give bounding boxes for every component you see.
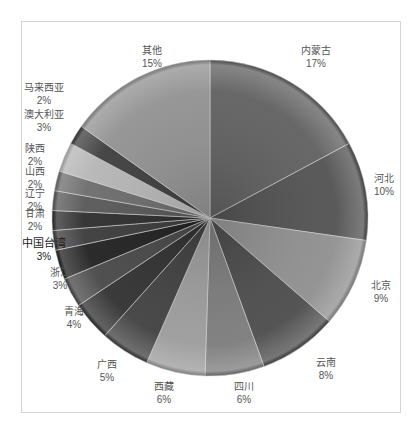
data-label-percent: 17% bbox=[301, 57, 331, 70]
data-label: 四川6% bbox=[234, 380, 254, 406]
data-label: 浙江3% bbox=[50, 266, 70, 292]
pie-slices bbox=[52, 60, 368, 376]
data-label-category: 马来西亚 bbox=[24, 81, 64, 94]
data-label-category: 中国台湾 bbox=[22, 237, 66, 250]
data-label: 北京9% bbox=[371, 279, 391, 305]
data-label-percent: 3% bbox=[22, 250, 66, 263]
data-label-category: 浙江 bbox=[50, 266, 70, 279]
data-label-percent: 8% bbox=[316, 369, 336, 382]
data-label: 云南8% bbox=[316, 356, 336, 382]
pie-chart bbox=[0, 0, 420, 438]
data-label-percent: 5% bbox=[97, 371, 117, 384]
data-label-percent: 3% bbox=[50, 279, 70, 292]
data-label-category: 河北 bbox=[374, 172, 394, 185]
data-label-category: 北京 bbox=[371, 279, 391, 292]
data-label-percent: 2% bbox=[24, 94, 64, 107]
data-label: 内蒙古17% bbox=[301, 44, 331, 70]
data-label-category: 西藏 bbox=[154, 380, 174, 393]
data-label-percent: 2% bbox=[25, 200, 45, 213]
data-label: 青海4% bbox=[64, 305, 84, 331]
data-label: 马来西亚2% bbox=[24, 81, 64, 107]
data-label-percent: 2% bbox=[25, 220, 45, 233]
data-label-percent: 9% bbox=[371, 292, 391, 305]
data-label: 澳大利亚3% bbox=[24, 108, 64, 134]
data-label-category: 澳大利亚 bbox=[24, 108, 64, 121]
data-label: 中国台湾3% bbox=[22, 237, 66, 263]
data-label-percent: 2% bbox=[25, 178, 45, 191]
data-label-percent: 6% bbox=[154, 393, 174, 406]
chart-caption bbox=[0, 426, 420, 438]
data-label-category: 青海 bbox=[64, 305, 84, 318]
data-label: 山西2% bbox=[25, 165, 45, 191]
data-label: 西藏6% bbox=[154, 380, 174, 406]
data-label-percent: 6% bbox=[234, 393, 254, 406]
data-label-percent: 10% bbox=[374, 185, 394, 198]
data-label-percent: 4% bbox=[64, 318, 84, 331]
data-label: 广西5% bbox=[97, 358, 117, 384]
data-label: 河北10% bbox=[374, 172, 394, 198]
data-label-percent: 15% bbox=[142, 57, 162, 70]
data-label-category: 云南 bbox=[316, 356, 336, 369]
data-label-category: 陕西 bbox=[25, 142, 45, 155]
data-label-percent: 3% bbox=[24, 121, 64, 134]
data-label-category: 广西 bbox=[97, 358, 117, 371]
data-label: 其他15% bbox=[142, 44, 162, 70]
data-label: 陕西2% bbox=[25, 142, 45, 168]
data-label-category: 其他 bbox=[142, 44, 162, 57]
data-label-category: 四川 bbox=[234, 380, 254, 393]
data-label-category: 内蒙古 bbox=[301, 44, 331, 57]
data-label-percent: 2% bbox=[25, 155, 45, 168]
